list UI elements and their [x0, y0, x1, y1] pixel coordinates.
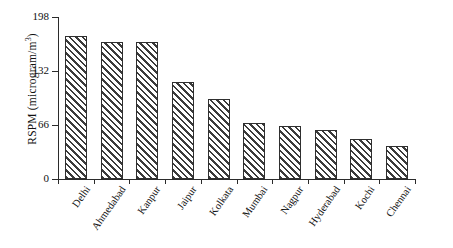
bar [136, 42, 158, 179]
y-axis-title: RSPM (microgram/m3) [24, 9, 38, 169]
bar [101, 42, 123, 179]
x-axis-label: Kolkata [207, 184, 236, 218]
x-axis-label: Hyderabad [306, 184, 342, 229]
x-axis-tick [94, 179, 95, 184]
plot-area: 066132198 [58, 17, 415, 180]
x-axis-label: Chennai [384, 184, 414, 220]
x-axis-tick [237, 179, 238, 184]
y-axis-tick-label: 132 [33, 64, 50, 77]
x-axis-tick [272, 179, 273, 184]
bar [208, 99, 230, 179]
x-axis-label: Ahmedabad [89, 184, 128, 232]
bar [279, 126, 301, 179]
y-axis-tick-label: 66 [38, 118, 49, 131]
bar [315, 130, 337, 179]
bar [386, 146, 408, 179]
y-axis-tick-label: 198 [33, 10, 50, 23]
x-axis-tick [165, 179, 166, 184]
x-axis-label: Delhi [70, 184, 93, 210]
y-axis-line [58, 17, 59, 180]
bar [350, 139, 372, 179]
x-axis-label: Jaipur [175, 184, 200, 212]
x-axis-tick [58, 179, 59, 184]
y-axis-tick: 66 [52, 125, 58, 126]
x-axis-label: Mumbai [241, 184, 271, 220]
x-axis-tick [308, 179, 309, 184]
x-axis-label: Nagpur [278, 184, 306, 217]
y-axis-tick: 132 [52, 71, 58, 72]
x-axis-tick [344, 179, 345, 184]
y-axis-tick-label: 0 [44, 172, 50, 185]
x-axis-label: Kochi [353, 184, 378, 212]
bar [172, 82, 194, 179]
x-axis-tick [129, 179, 130, 184]
bar [65, 36, 87, 179]
rspm-bar-chart-figure: RSPM (microgram/m3) 066132198 DelhiAhmed… [0, 0, 453, 248]
x-axis-tick [379, 179, 380, 184]
x-axis-tick [415, 179, 416, 184]
x-axis-tick [201, 179, 202, 184]
x-axis-label: Kanpur [136, 184, 164, 217]
y-axis-tick: 198 [52, 17, 58, 18]
bar [243, 123, 265, 179]
